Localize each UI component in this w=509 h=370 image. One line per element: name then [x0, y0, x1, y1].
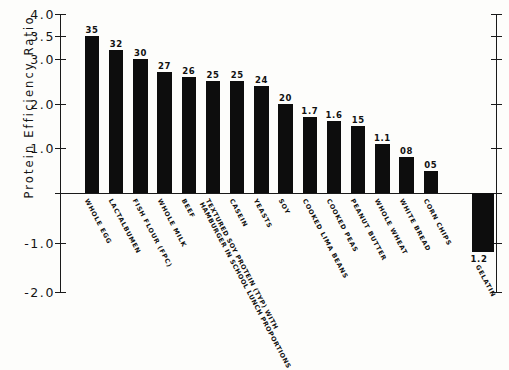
bar: [303, 117, 318, 193]
bar-value-label: 15: [352, 115, 365, 125]
bar-value-label: 30: [134, 48, 147, 58]
y-axis-tick-label: -1.0: [11, 235, 55, 250]
y-axis-tick-label: -2.0: [11, 285, 55, 300]
y-axis-tick-label: 4.0: [11, 7, 55, 22]
y-axis-tick-label: 3.5: [11, 29, 55, 44]
bar: [424, 171, 439, 193]
bar: [375, 144, 390, 193]
x-axis-category-label: BEEF: [179, 198, 195, 220]
category-label-line: COOKED LIMA BEANS: [300, 198, 348, 280]
bar: [85, 36, 100, 193]
bar: [278, 104, 293, 194]
plot-area: 35WHOLE EGG32LACTALBUMEN30FISH FLOUR (FP…: [61, 0, 509, 370]
bar-value-label: 1.1: [374, 133, 391, 143]
y-axis-tick-label: 3.0: [11, 51, 55, 66]
bar-value-label: 1.7: [301, 106, 318, 116]
bar: [157, 72, 172, 193]
bar: [133, 59, 148, 193]
category-label-line: SOY: [276, 198, 290, 216]
y-axis-tick-labels: 4.03.53.02.01.0-1.0-2.0: [7, 0, 55, 370]
bar: [472, 193, 494, 252]
bar: [109, 50, 124, 193]
bar-value-label: 32: [110, 39, 123, 49]
bar-value-label: 25: [231, 70, 244, 80]
bar: [230, 81, 245, 193]
bar-value-label: 26: [182, 66, 195, 76]
category-label-line: CASEIN: [228, 198, 249, 229]
y-axis-tick-label: 2.0: [11, 96, 55, 111]
bar-value-label: 08: [400, 146, 413, 156]
bar-value-label: 25: [206, 70, 219, 80]
x-axis-category-label: COOKED LIMA BEANS: [300, 198, 348, 280]
x-axis-category-label: GELATIN: [473, 264, 496, 299]
bar: [254, 86, 269, 193]
bar-value-label: 35: [85, 25, 98, 35]
bar-value-label: 1.2: [471, 254, 488, 264]
bar-value-label: 24: [255, 75, 268, 85]
category-label-line: TEXTURED SOY PROTEIN (TYP) WITH: [203, 198, 297, 367]
bar-value-label: 27: [158, 61, 171, 71]
y-axis-tick-label: 1.0: [11, 141, 55, 156]
x-axis-category-label: SOY: [276, 198, 290, 216]
bar-value-label: 20: [279, 93, 292, 103]
bar: [399, 157, 414, 193]
bar-chart: Protein Efficiency Ratio 4.03.53.02.01.0…: [0, 0, 509, 370]
category-label-line: GELATIN: [473, 264, 496, 299]
bar-value-label: 05: [424, 160, 437, 170]
category-label-line: BEEF: [179, 198, 195, 220]
x-axis-category-label: CASEIN: [228, 198, 249, 229]
bar: [206, 81, 221, 193]
category-label-line: YEASTS: [252, 198, 274, 230]
bar: [351, 126, 366, 193]
bar-value-label: 1.6: [326, 110, 343, 120]
bar: [327, 121, 342, 193]
bar: [182, 77, 197, 193]
x-axis-category-label: YEASTS: [252, 198, 274, 230]
